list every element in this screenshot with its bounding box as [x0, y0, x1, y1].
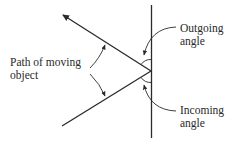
path-pointer-lower-arrow — [90, 74, 105, 96]
path-label-line-2: object — [10, 69, 81, 82]
incoming-label-line-2: angle — [180, 117, 224, 130]
incoming-label-line-1: Incoming — [180, 104, 224, 117]
outgoing-angle-pointer-arrow — [144, 27, 176, 55]
incoming-angle-label: Incoming angle — [180, 104, 224, 130]
incoming-angle-arc — [141, 78, 152, 83]
path-label-line-1: Path of moving — [10, 56, 81, 69]
path-of-moving-object-label: Path of moving object — [10, 56, 81, 82]
path-pointer-upper-arrow — [90, 45, 105, 68]
outgoing-angle-arc — [141, 59, 152, 64]
outgoing-label-line-2: angle — [180, 35, 223, 48]
outgoing-angle-label: Outgoing angle — [180, 22, 223, 48]
outgoing-label-line-1: Outgoing — [180, 22, 223, 35]
incoming-angle-pointer-arrow — [144, 85, 176, 111]
